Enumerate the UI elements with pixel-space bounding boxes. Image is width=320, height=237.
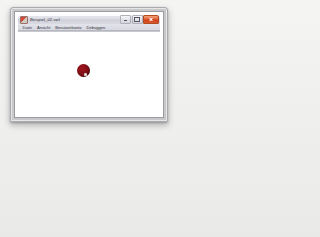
minimize-icon [124,20,127,21]
flash-document-icon [20,16,28,24]
window-client-area: Beispiel_02.swf Datei Ansicht B [14,11,164,118]
menu-item-datei[interactable]: Datei [20,25,35,30]
window-title: Beispiel_02.swf [30,17,120,22]
desktop-background: Beispiel_02.swf Datei Ansicht B [0,0,182,141]
menu-item-debuggen[interactable]: Debuggen [84,25,108,30]
close-button[interactable] [143,15,159,24]
maximize-button[interactable] [132,15,143,24]
window-controls [120,15,159,24]
flash-stage-canvas[interactable] [18,31,160,114]
ball-highlight-icon [84,73,87,76]
minimize-button[interactable] [120,15,131,24]
menu-item-benutzerkonto[interactable]: Benutzerkonto [53,25,84,30]
application-window[interactable]: Beispiel_02.swf Datei Ansicht B [10,7,168,122]
menu-item-ansicht[interactable]: Ansicht [35,25,53,30]
menu-bar: Datei Ansicht Benutzerkonto Debuggen [18,24,160,31]
maximize-icon [134,17,140,22]
title-bar[interactable]: Beispiel_02.swf [18,15,160,24]
close-icon [149,18,153,22]
red-ball-shape [77,64,90,77]
